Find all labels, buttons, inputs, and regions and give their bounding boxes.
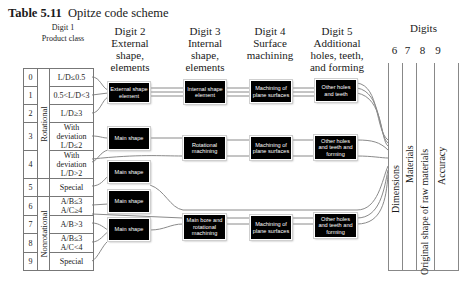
box-plane-machining: Machining of plane surfaces	[250, 215, 292, 240]
box-main-shape: Main shape	[108, 218, 150, 241]
box-main-shape: Main shape	[108, 190, 150, 213]
row-cond: Special	[50, 253, 94, 271]
box-main-shape: Main shape	[108, 161, 150, 183]
row-num: 3	[24, 123, 38, 151]
row-cond: 0.5<L/D<3	[50, 87, 94, 105]
row-cond: A/B>3	[50, 216, 94, 234]
row-cond: With deviation L/D≤2	[50, 123, 94, 151]
box-other-holes: Other holes and teeth	[315, 79, 357, 102]
box-external-shape: External shape element	[108, 82, 150, 103]
group-label: Rotational	[39, 106, 48, 141]
supp-label: Dimensions	[390, 165, 401, 213]
row-cond: L/D≥3	[50, 105, 94, 123]
row-cond: Special	[50, 179, 94, 197]
col-accuracy: Accuracy	[435, 63, 449, 270]
row-num: 8	[24, 234, 38, 253]
row-num: 6	[24, 197, 38, 216]
row-cond: A/B≤3 A/C<4	[50, 234, 94, 253]
group-label: Nonrotational	[39, 210, 48, 257]
box-plane-machining: Machining of plane surfaces	[250, 136, 292, 160]
row-num: 2	[24, 105, 38, 123]
group-rotational: Rotational	[38, 69, 50, 179]
supp-label: Accuracy	[436, 147, 447, 185]
row-cond: L/D≤0.5	[50, 69, 94, 87]
box-internal-shape: Internal shape element	[184, 80, 226, 104]
group-spacer	[38, 179, 50, 197]
box-main-shape: Main shape	[108, 127, 150, 150]
row-num: 0	[24, 69, 38, 87]
group-nonrotational: Nonrotational	[38, 197, 50, 271]
box-main-bore: Main bore and rotational machining	[183, 214, 226, 240]
col-materials: Materials	[403, 63, 417, 270]
row-cond: A/B≤3 A/C≥4	[50, 197, 94, 216]
box-other-holes-forming: Other holes and teeth and forming	[314, 213, 357, 238]
supp-label: Original shape of raw materials	[419, 149, 430, 275]
row-num: 1	[24, 87, 38, 105]
row-num: 4	[24, 151, 38, 179]
col-original-shape: Original shape of raw materials	[417, 63, 435, 270]
row-num: 9	[24, 253, 38, 271]
row-num: 7	[24, 216, 38, 234]
col-dimensions: Dimensions	[389, 63, 403, 270]
product-class-table: 0 Rotational L/D≤0.5 1 0.5<L/D<3 2 L/D≥3…	[23, 68, 94, 271]
box-rotational-machining: Rotational machining	[183, 136, 226, 160]
supplementary-table: Dimensions Materials Original shape of r…	[388, 63, 459, 271]
supp-label: Materials	[404, 145, 415, 183]
box-other-holes-forming: Other holes and teeth and forming	[314, 135, 357, 160]
row-cond: With deviation L/D>2	[50, 151, 94, 179]
box-plane-machining: Machining of plane surfaces	[250, 80, 292, 103]
row-num: 5	[24, 179, 38, 197]
